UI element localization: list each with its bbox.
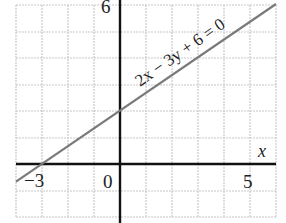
tick-label-0: 0 [103,171,113,192]
equation-label: 2x − 3y + 6 = 0 [131,14,228,90]
line-chart: x −3 0 5 6 2x − 3y + 6 = 0 [0,0,286,223]
tick-label-neg3: −3 [24,170,44,191]
grid [16,5,276,217]
tick-label-5: 5 [243,171,253,192]
tick-label-6: 6 [101,0,111,17]
x-axis-label: x [257,141,266,161]
